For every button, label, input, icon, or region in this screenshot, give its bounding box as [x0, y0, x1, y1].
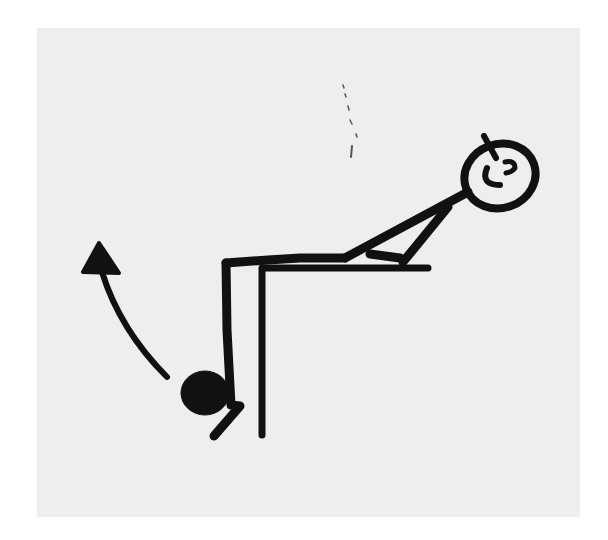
table: [262, 268, 428, 435]
table-top: [262, 268, 428, 435]
dotted-mark: [343, 85, 357, 157]
arrow-head: [83, 243, 119, 273]
torso: [345, 192, 468, 258]
exercise-illustration: [0, 0, 608, 540]
smile-icon: [485, 168, 500, 185]
thigh: [226, 258, 345, 263]
lift-arrow-icon: [83, 243, 167, 377]
hand: [370, 254, 400, 258]
head: [455, 134, 545, 219]
head-circle: [455, 134, 545, 219]
leg: [214, 258, 345, 436]
arrow-shaft: [102, 272, 167, 377]
ankle-weight-ball: [181, 371, 229, 415]
ankle-weight: [181, 371, 229, 415]
eye-icon: [505, 162, 515, 173]
body: [345, 192, 468, 262]
illustration-canvas: [0, 0, 608, 540]
